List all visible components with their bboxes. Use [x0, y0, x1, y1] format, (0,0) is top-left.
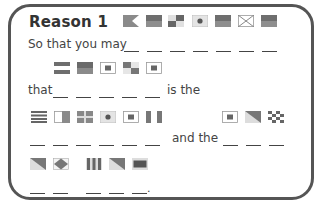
flag-diagonal-half-icon	[245, 111, 261, 123]
flag-square-in-square-icon	[222, 111, 238, 123]
answer-blank[interactable]	[132, 193, 147, 194]
card-title: Reason 1	[29, 13, 108, 31]
line2-suffix: is the	[167, 83, 200, 97]
flag-diagonal-cross-icon	[238, 15, 254, 27]
flag-bordered-rectangle-icon	[132, 158, 148, 170]
answer-blank[interactable]	[246, 145, 261, 146]
flag-solid-icon	[77, 62, 93, 74]
flag-checkerboard-icon	[268, 111, 284, 123]
answer-blank[interactable]	[30, 193, 45, 194]
final-period: .	[147, 182, 151, 195]
flag-diagonal-half-icon	[30, 158, 46, 170]
answer-blank[interactable]	[53, 193, 68, 194]
answer-blank[interactable]	[53, 97, 68, 98]
flag-square-in-square-icon	[146, 62, 162, 74]
flag-dot-icon	[100, 111, 116, 123]
flag-square-in-square-icon	[100, 62, 116, 74]
answer-blank[interactable]	[262, 51, 277, 52]
answer-blank[interactable]	[86, 193, 101, 194]
answer-blank[interactable]	[122, 145, 137, 146]
answer-blank[interactable]	[109, 193, 124, 194]
answer-blank[interactable]	[53, 145, 68, 146]
flag-solid-icon	[261, 15, 277, 27]
answer-blank[interactable]	[99, 97, 114, 98]
answer-blank[interactable]	[76, 145, 91, 146]
answer-blank[interactable]	[145, 145, 160, 146]
answer-blank[interactable]	[145, 97, 160, 98]
flag-diagonal-half-icon	[109, 158, 125, 170]
answer-blank[interactable]	[30, 145, 45, 146]
flag-swallowtail-icon	[123, 15, 139, 27]
flag-vertical-half-icon	[54, 111, 70, 123]
answer-blank[interactable]	[76, 97, 91, 98]
line3-text: and the	[172, 131, 218, 145]
answer-blank[interactable]	[223, 145, 238, 146]
flag-vertical-stripes-icon	[86, 158, 102, 170]
answer-blank[interactable]	[239, 51, 254, 52]
flag-horizontal-stripes-icon	[54, 62, 70, 74]
answer-blank[interactable]	[122, 97, 137, 98]
answer-blank[interactable]	[147, 51, 162, 52]
flag-cross-quarters-icon	[77, 111, 93, 123]
answer-blank[interactable]	[193, 51, 208, 52]
flag-vertical-thirds-icon	[146, 111, 162, 123]
answer-blank[interactable]	[216, 51, 231, 52]
answer-blank[interactable]	[170, 51, 185, 52]
flag-square-in-square-icon	[123, 111, 139, 123]
flag-checker-quarters-icon	[168, 15, 184, 27]
answer-blank[interactable]	[269, 145, 284, 146]
line1-text: So that you may	[28, 37, 127, 51]
flag-dot-icon	[192, 15, 208, 27]
line2-text: that	[28, 83, 52, 97]
flag-horizontal-stripes-icon	[31, 111, 47, 123]
flag-checker-quarters-icon	[123, 62, 139, 74]
flag-solid-icon	[146, 15, 162, 27]
answer-blank[interactable]	[99, 145, 114, 146]
flag-diamond-icon	[53, 158, 69, 170]
flag-solid-icon	[215, 15, 231, 27]
answer-blank[interactable]	[124, 51, 139, 52]
reason-card	[8, 4, 314, 200]
